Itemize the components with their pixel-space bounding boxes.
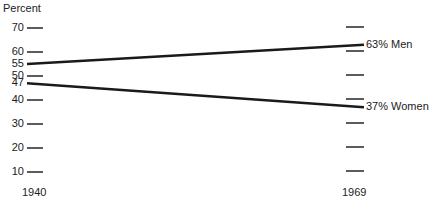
left-axis-ticks xyxy=(27,28,43,172)
y-tick-label: 70 xyxy=(0,21,24,33)
y-tick-label: 47 xyxy=(0,76,24,88)
women-end-label: 37% Women xyxy=(366,100,429,112)
y-tick-label: 30 xyxy=(0,117,24,129)
y-tick-label: 40 xyxy=(0,93,24,105)
right-axis-ticks xyxy=(346,27,364,171)
x-label-end: 1969 xyxy=(342,186,366,198)
series-lines xyxy=(27,45,364,107)
series-line-women xyxy=(27,83,364,107)
y-tick-label: 10 xyxy=(0,165,24,177)
men-end-label: 63% Men xyxy=(366,38,412,50)
y-tick-label: 20 xyxy=(0,141,24,153)
y-tick-label: 55 xyxy=(0,57,24,69)
x-label-start: 1940 xyxy=(22,186,46,198)
y-tick-label: 60 xyxy=(0,45,24,57)
series-line-men xyxy=(27,45,364,64)
y-axis-label: Percent xyxy=(3,2,41,14)
